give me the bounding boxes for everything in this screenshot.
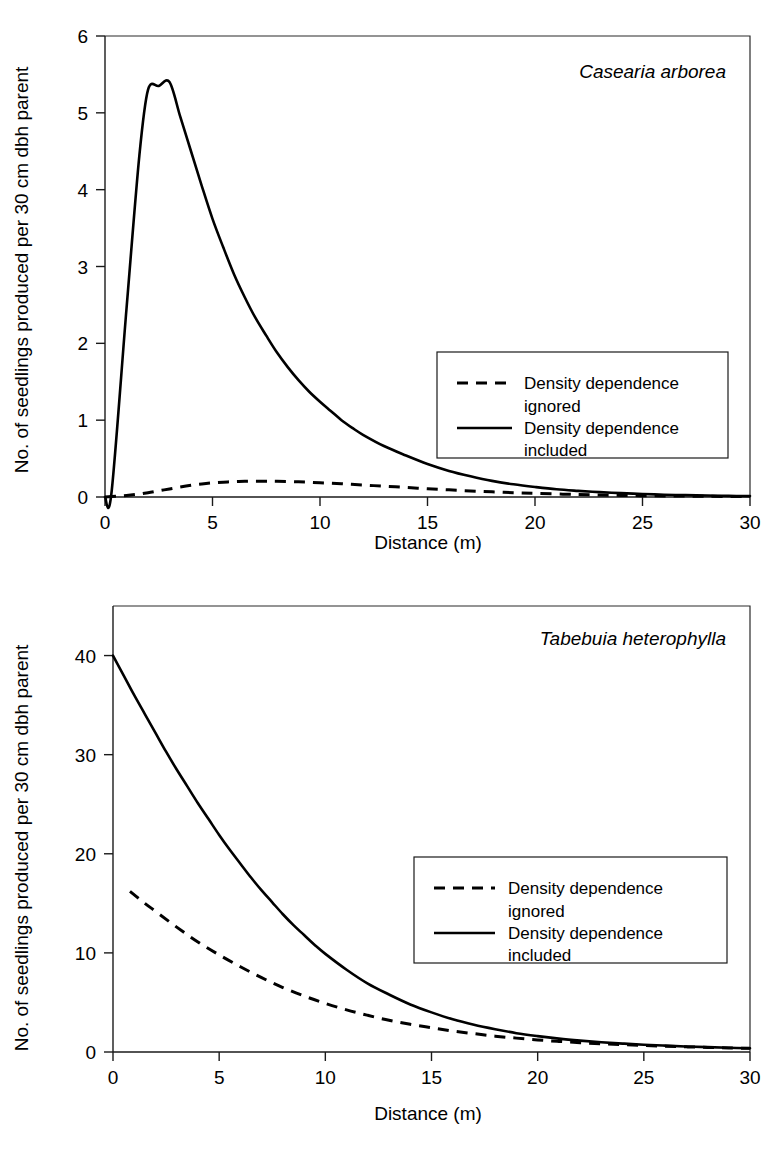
x-tick-label: 30 [739, 1067, 760, 1088]
x-tick-label: 20 [527, 1067, 548, 1088]
tabebuia-chart-svg: No. of seedlings produced per 30 cm dbh … [0, 580, 779, 1154]
y-tick-label: 1 [77, 410, 88, 431]
x-tick-label: 0 [108, 1067, 119, 1088]
x-axis-title-bottom: Distance (m) [374, 1103, 482, 1124]
legend-label-ignored-line1-bottom: Density dependence [508, 879, 663, 898]
x-tick-label: 10 [309, 512, 330, 533]
series-group-bottom [113, 656, 750, 1049]
x-tick-label: 30 [739, 512, 760, 533]
y-axis-title-bottom: No. of seedlings produced per 30 cm dbh … [11, 644, 32, 1051]
y-tick-label: 0 [85, 1042, 96, 1063]
y-tick-label: 40 [75, 646, 96, 667]
x-tick-label: 0 [100, 512, 111, 533]
legend-label-ignored-line1-top: Density dependence [524, 374, 679, 393]
legend-label-included-line2-bottom: included [508, 946, 571, 965]
species-label-top: Casearia arborea [579, 61, 726, 82]
x-tick-label: 15 [421, 1067, 442, 1088]
x-tick-label: 5 [207, 512, 218, 533]
x-axis-title-top: Distance (m) [374, 532, 482, 553]
y-tick-label: 6 [77, 26, 88, 47]
chart-panel-tabebuia: No. of seedlings produced per 30 cm dbh … [0, 580, 779, 1154]
legend-label-ignored-line2-bottom: ignored [508, 902, 565, 921]
y-tick-label: 30 [75, 745, 96, 766]
plot-frame-bottom [113, 606, 750, 1052]
x-tick-label: 5 [214, 1067, 225, 1088]
x-tick-label: 20 [524, 512, 545, 533]
chart-panel-casearia: No. of seedlings produced per 30 cm dbh … [0, 0, 779, 580]
plot-border [113, 606, 750, 1052]
x-tick-label: 25 [632, 512, 653, 533]
x-tick-label: 25 [633, 1067, 654, 1088]
casearia-chart-svg: No. of seedlings produced per 30 cm dbh … [0, 0, 779, 580]
x-tick-label: 10 [315, 1067, 336, 1088]
y-tick-label: 5 [77, 103, 88, 124]
y-tick-label: 2 [77, 333, 88, 354]
legend-bottom: Density dependence ignored Density depen… [414, 857, 727, 965]
y-tick-label: 20 [75, 844, 96, 865]
legend-label-included-line1-top: Density dependence [524, 419, 679, 438]
y-axis-title-top: No. of seedlings produced per 30 cm dbh … [11, 66, 32, 473]
legend-label-included-line1-bottom: Density dependence [508, 924, 663, 943]
y-tick-label: 4 [77, 180, 88, 201]
figure-two-panel-seedling-density: No. of seedlings produced per 30 cm dbh … [0, 0, 779, 1154]
series-line-included [113, 656, 750, 1049]
species-label-bottom: Tabebuia heterophylla [540, 628, 726, 649]
y-tick-label: 10 [75, 943, 96, 964]
y-tick-label: 0 [77, 487, 88, 508]
y-tick-label: 3 [77, 257, 88, 278]
x-tick-label: 15 [417, 512, 438, 533]
legend-label-ignored-line2-top: ignored [524, 397, 581, 416]
legend-label-included-line2-top: included [524, 441, 587, 460]
legend-top: Density dependence ignored Density depen… [437, 352, 728, 460]
